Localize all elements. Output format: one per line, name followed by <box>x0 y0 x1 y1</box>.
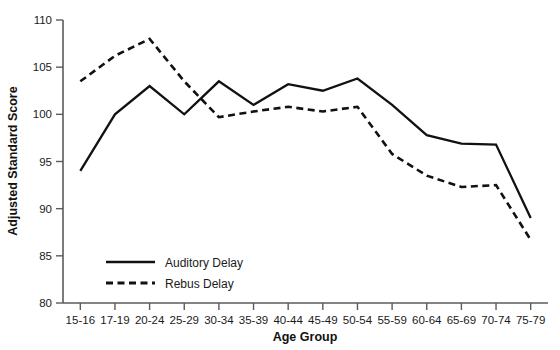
x-tick-label: 70-74 <box>481 314 511 326</box>
x-tick-label: 25-29 <box>170 314 199 326</box>
x-tick-label: 65-69 <box>447 314 476 326</box>
x-tick-label: 30-34 <box>204 314 234 326</box>
x-tick-label: 50-54 <box>343 314 373 326</box>
x-tick-label: 40-44 <box>273 314 303 326</box>
series-line-auditory-delay <box>80 78 530 218</box>
x-axis-title: Age Group <box>273 330 338 344</box>
x-tick-label: 20-24 <box>135 314 165 326</box>
x-tick-label: 17-19 <box>100 314 129 326</box>
legend-label-rebus-delay: Rebus Delay <box>165 277 234 291</box>
series-line-rebus-delay <box>80 39 530 240</box>
y-tick-label: 85 <box>39 250 52 262</box>
y-tick-label: 110 <box>34 14 52 26</box>
y-tick-label: 100 <box>33 108 52 120</box>
y-tick-label: 105 <box>33 61 52 73</box>
y-tick-label: 90 <box>39 203 52 215</box>
x-tick-label: 55-59 <box>377 314 406 326</box>
legend-label-auditory-delay: Auditory Delay <box>165 256 243 270</box>
y-tick-label: 80 <box>39 297 52 309</box>
line-chart: 80859095100105110 15-1617-1920-2425-2930… <box>0 0 560 350</box>
series-group <box>80 39 530 240</box>
y-axis: 80859095100105110 <box>33 14 63 309</box>
x-tick-group: 15-1617-1920-2425-2930-3435-3940-4445-49… <box>66 303 546 326</box>
y-axis-title: Adjusted Standard Score <box>6 86 20 235</box>
chart-canvas: 80859095100105110 15-1617-1920-2425-2930… <box>0 0 560 350</box>
y-tick-group: 80859095100105110 <box>33 14 63 309</box>
y-tick-label: 95 <box>39 156 52 168</box>
x-tick-label: 75-79 <box>516 314 545 326</box>
x-tick-label: 60-64 <box>412 314 442 326</box>
chart-legend: Auditory DelayRebus Delay <box>106 256 243 291</box>
x-axis: 15-1617-1920-2425-2930-3435-3940-4445-49… <box>63 303 548 326</box>
x-tick-label: 45-49 <box>308 314 337 326</box>
x-tick-label: 35-39 <box>239 314 268 326</box>
x-tick-label: 15-16 <box>66 314 95 326</box>
